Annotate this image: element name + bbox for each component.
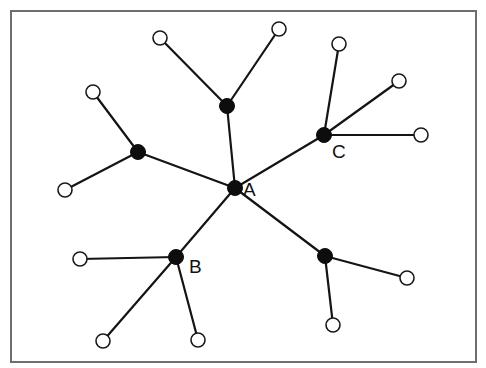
filled-node-h2 (131, 145, 146, 160)
edge-h1-l1 (160, 38, 227, 106)
edge-c-l6 (324, 81, 399, 135)
edge-a-h2 (138, 152, 235, 188)
open-node-l1 (153, 31, 167, 45)
edge-b-l8 (80, 257, 176, 259)
open-node-l11 (400, 271, 414, 285)
filled-node-h3 (318, 249, 333, 264)
edge-h1-l2 (227, 29, 279, 106)
filled-node-a (228, 181, 243, 196)
node-label-b: B (189, 256, 202, 277)
edge-a-b (176, 188, 235, 257)
edge-b-l9 (103, 257, 176, 341)
edge-h3-l12 (325, 256, 333, 325)
open-node-l12 (326, 318, 340, 332)
network-diagram: A B C (0, 0, 486, 368)
open-node-l8 (73, 252, 87, 266)
open-node-l7 (414, 128, 428, 142)
edge-h3-l11 (325, 256, 407, 278)
open-node-l5 (332, 37, 346, 51)
filled-node-b (169, 250, 184, 265)
filled-node-c (317, 128, 332, 143)
open-node-l6 (392, 74, 406, 88)
open-node-l3 (86, 85, 100, 99)
edge-h2-l4 (65, 152, 138, 190)
edge-h2-l3 (93, 92, 138, 152)
edge-a-h1 (227, 106, 235, 188)
edge-c-l5 (324, 44, 339, 135)
node-label-a: A (243, 179, 256, 200)
open-node-l10 (191, 333, 205, 347)
filled-node-h1 (220, 99, 235, 114)
open-node-l2 (272, 22, 286, 36)
open-node-l9 (96, 334, 110, 348)
open-node-l4 (58, 183, 72, 197)
node-label-c: C (332, 141, 346, 162)
